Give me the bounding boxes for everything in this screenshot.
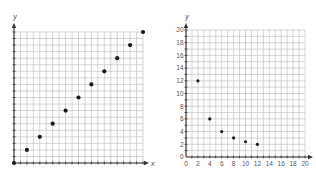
data-point xyxy=(128,43,132,47)
x-tick-label: 0 xyxy=(184,160,188,167)
y-tick-label: 6 xyxy=(180,115,184,122)
y-axis-label: y xyxy=(12,13,17,21)
x-tick-label: 18 xyxy=(289,160,297,167)
data-point xyxy=(115,56,119,60)
grid-lines xyxy=(186,30,305,157)
data-point xyxy=(208,117,211,120)
data-point xyxy=(196,79,199,82)
data-point xyxy=(244,140,247,143)
x-tick-label: 20 xyxy=(301,160,309,167)
data-point xyxy=(220,130,223,133)
data-point xyxy=(51,122,55,126)
right-scatter-chart: 0246810121416182002468101214161820y xyxy=(158,0,316,178)
x-tick-label: 14 xyxy=(266,160,274,167)
data-point xyxy=(89,82,93,86)
data-point xyxy=(141,30,145,34)
x-axis-label: x xyxy=(150,160,155,167)
left-chart-canvas: yx xyxy=(0,0,158,178)
axes xyxy=(184,23,313,159)
y-arrow-icon xyxy=(184,23,188,28)
y-tick-label: 8 xyxy=(180,103,184,110)
y-tick-label: 16 xyxy=(176,52,184,59)
data-point xyxy=(12,161,16,165)
y-tick-label: 20 xyxy=(176,26,184,33)
y-tick-label: 0 xyxy=(180,153,184,160)
x-tick-label: 6 xyxy=(220,160,224,167)
x-tick-label: 4 xyxy=(208,160,212,167)
y-tick-label: 2 xyxy=(180,141,184,148)
x-tick-label: 2 xyxy=(196,160,200,167)
y-tick-label: 10 xyxy=(176,90,184,97)
y-tick-label: 18 xyxy=(176,39,184,46)
y-tick-label: 4 xyxy=(180,128,184,135)
x-tick-label: 16 xyxy=(278,160,286,167)
right-chart-canvas: 0246810121416182002468101214161820y xyxy=(158,0,316,178)
data-point xyxy=(232,136,235,139)
x-arrow-icon xyxy=(144,161,149,165)
y-tick-label: 12 xyxy=(176,77,184,84)
left-scatter-chart: yx xyxy=(0,0,158,178)
y-tick-label: 14 xyxy=(176,64,184,71)
y-arrow-icon xyxy=(12,23,16,28)
x-tick-label: 8 xyxy=(232,160,236,167)
x-tick-label: 10 xyxy=(242,160,250,167)
data-point xyxy=(256,143,259,146)
data-point xyxy=(76,95,80,99)
data-point xyxy=(64,109,68,113)
data-point xyxy=(102,69,106,73)
data-point xyxy=(38,135,42,139)
data-point xyxy=(25,148,29,152)
x-tick-label: 12 xyxy=(254,160,262,167)
y-axis-label: y xyxy=(184,13,189,21)
x-arrow-icon xyxy=(308,155,313,159)
tick-labels: 0246810121416182002468101214161820 xyxy=(176,26,309,167)
